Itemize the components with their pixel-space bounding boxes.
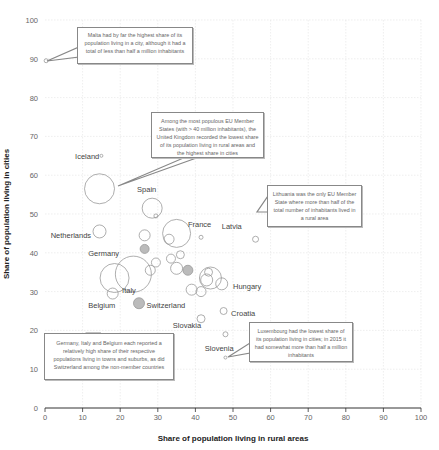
bubble (140, 244, 149, 253)
point-label: Italy (122, 286, 136, 295)
bubble (205, 268, 213, 276)
bubble (85, 174, 115, 204)
annotation-luxembourg: Luxembourg had the lowest share of its p… (249, 322, 353, 362)
annotation-uk-text: Among the most populous EU Member States… (157, 118, 259, 156)
point-label: Netherlands (51, 231, 92, 240)
x-tick-label: 100 (415, 413, 428, 422)
annotation-uk: Among the most populous EU Member States… (151, 112, 264, 158)
bubble (154, 214, 158, 218)
point-label: France (188, 220, 211, 229)
bubble (171, 262, 183, 274)
x-tick-label: 90 (379, 413, 387, 422)
point-label: Slovenia (205, 344, 235, 353)
bubble (183, 265, 193, 275)
bubble (216, 278, 228, 290)
x-axis-title: Share of population living in rural area… (158, 434, 309, 443)
annotation-lithuania-text: Lithuania was the only EU Member State w… (273, 191, 357, 221)
x-tick-label: 20 (116, 413, 124, 422)
y-tick-label: 10 (30, 365, 38, 374)
bubble (93, 225, 106, 238)
point-label: Switzerland (147, 301, 186, 310)
annotation-malta-text: Malta had by far the highest share of it… (85, 32, 186, 54)
point-label: Hungary (233, 282, 262, 291)
bubble (196, 287, 206, 297)
point-label: Iceland (75, 152, 99, 161)
bubble (134, 298, 145, 309)
y-tick-label: 50 (30, 210, 38, 219)
annotation-luxembourg-text: Luxembourg had the lowest share of its p… (255, 328, 347, 358)
y-tick-label: 90 (30, 55, 38, 64)
bubble (166, 254, 175, 263)
annotation-germany: Germany, Italy and Belgium each reported… (44, 333, 174, 380)
x-tick-label: 60 (266, 413, 274, 422)
y-tick-label: 80 (30, 94, 38, 103)
bubble (164, 234, 174, 244)
y-tick-label: 60 (30, 171, 38, 180)
bubble (223, 332, 228, 337)
x-tick-label: 40 (191, 413, 199, 422)
y-tick-label: 30 (30, 288, 38, 297)
bubble (253, 236, 259, 242)
annotation-malta: Malta had by far the highest share of it… (77, 27, 193, 64)
point-label: Belgium (88, 301, 115, 310)
point-label: Slovakia (173, 321, 202, 330)
x-tick-label: 70 (304, 413, 312, 422)
x-tick-label: 80 (342, 413, 350, 422)
point-labels: IcelandSpainFranceLatviaNetherlandsGerma… (51, 152, 262, 353)
annotation-lithuania: Lithuania was the only EU Member State w… (267, 185, 362, 227)
point-label: Germany (88, 249, 119, 258)
annotation-germany-text: Germany, Italy and Belgium each reported… (53, 340, 164, 370)
bubble (176, 251, 184, 259)
bubble (139, 230, 150, 241)
y-tick-label: 0 (34, 404, 38, 413)
point-label: Croatia (231, 309, 256, 318)
bubble (151, 258, 160, 267)
x-tick-label: 50 (229, 413, 237, 422)
x-tick-label: 0 (43, 413, 47, 422)
point-label: Spain (137, 185, 156, 194)
bubble (220, 308, 227, 315)
bubble (100, 154, 103, 157)
bubble (186, 284, 197, 295)
y-tick-label: 40 (30, 249, 38, 258)
y-tick-label: 20 (30, 326, 38, 335)
y-axis-title: Share of population living in cities (2, 148, 11, 279)
x-tick-label: 30 (154, 413, 162, 422)
bubbles (44, 59, 258, 359)
bubble (224, 356, 227, 359)
y-tick-label: 70 (30, 132, 38, 141)
point-label: Latvia (222, 222, 243, 231)
y-tick-label: 100 (25, 16, 38, 25)
bubble-chart: 0102030405060708090100010203040506070809… (0, 0, 439, 450)
bubble (142, 198, 162, 218)
bubble (107, 288, 118, 299)
bubble (199, 235, 203, 239)
x-tick-label: 10 (78, 413, 86, 422)
